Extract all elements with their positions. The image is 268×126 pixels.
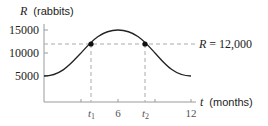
x-tick-label-12: 12 bbox=[186, 107, 197, 119]
population-curve bbox=[44, 30, 191, 76]
y-axis-var: R bbox=[19, 4, 28, 18]
y-tick-label-15000: 15000 bbox=[9, 23, 39, 37]
y-axis-unit: (rabbits) bbox=[33, 5, 73, 17]
reference-line-label: R = 12,000 bbox=[198, 37, 252, 51]
x-axis-var: t bbox=[200, 95, 204, 109]
x-tick-label-6: 6 bbox=[115, 107, 121, 119]
x-tick-label-t1: t1 bbox=[88, 107, 95, 121]
rabbit-population-chart: R (rabbits) 15000 10000 5000 R = 12,000 … bbox=[0, 0, 268, 126]
x-axis-unit: (months) bbox=[209, 96, 252, 108]
intersection-point-t1 bbox=[88, 41, 93, 46]
y-tick-label-5000: 5000 bbox=[15, 69, 39, 83]
x-tick-label-t2: t2 bbox=[142, 107, 149, 121]
y-tick-label-10000: 10000 bbox=[9, 46, 39, 60]
x-axis-label: t (months) bbox=[200, 95, 253, 109]
intersection-point-t2 bbox=[142, 41, 147, 46]
y-axis-label: R (rabbits) bbox=[19, 4, 74, 18]
